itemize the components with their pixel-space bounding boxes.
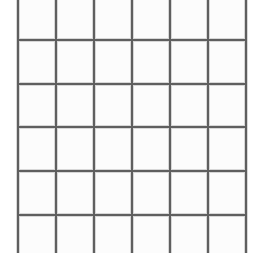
grid-graphic [0, 0, 265, 253]
grid-canvas [0, 0, 265, 253]
